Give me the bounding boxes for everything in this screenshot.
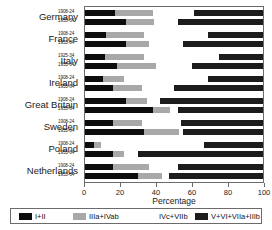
- bar-segment: [142, 120, 181, 126]
- bar-row: [85, 32, 263, 38]
- bar-group: [85, 29, 263, 51]
- bar-segment: [142, 85, 174, 91]
- bar-row: [85, 85, 263, 91]
- bar-segment: [85, 173, 138, 179]
- bar-segment: [153, 10, 194, 16]
- cohort-label: 1908-24: [58, 97, 84, 103]
- legend-label: I+II: [35, 212, 46, 221]
- bar-segment: [85, 54, 105, 60]
- bar-segment: [208, 76, 263, 82]
- x-axis: 020406080100: [84, 182, 264, 188]
- bar-segment: [126, 98, 147, 104]
- bar-row: [85, 164, 263, 170]
- bar-segment: [194, 10, 263, 16]
- bar-row: [85, 151, 263, 157]
- bar-segment: [149, 41, 183, 47]
- x-axis-tick: [264, 183, 265, 187]
- bar-segment: [156, 63, 192, 69]
- bar-segment: [126, 19, 154, 25]
- bar-row: [85, 54, 263, 60]
- x-axis-tick: [228, 183, 229, 187]
- bar-segment: [174, 85, 263, 91]
- bar-row: [85, 173, 263, 179]
- cohort-label: 1908-24: [58, 9, 84, 15]
- bar-segment: [115, 10, 152, 16]
- cohort-label: 1955-64: [58, 150, 84, 156]
- bar-segment: [94, 142, 101, 148]
- bar-segment: [192, 63, 263, 69]
- cohort-label: 1955-64: [58, 62, 84, 68]
- legend-swatch: [73, 213, 86, 220]
- cohort-label: 1955-64: [58, 128, 84, 134]
- bar-row: [85, 63, 263, 69]
- cohort-label: 1908-24: [58, 141, 84, 147]
- bar-segment: [85, 41, 126, 47]
- bar-segment: [126, 41, 149, 47]
- bar-row: [85, 142, 263, 148]
- bar-segment: [219, 54, 264, 60]
- bar-segment: [85, 164, 113, 170]
- chart-legend: I+IIIIIa+IVabIVc+VIIbV+VI+VIIa+IIIb: [10, 208, 262, 224]
- cohort-label-group: 1908-241955-64: [58, 28, 84, 50]
- bar-segment: [153, 107, 171, 113]
- bar-segment: [124, 76, 208, 82]
- bar-segment: [85, 129, 144, 135]
- bar-segment: [178, 19, 263, 25]
- bar-segment: [154, 19, 177, 25]
- x-axis-tick: [156, 183, 157, 187]
- bar-segment: [117, 63, 156, 69]
- bar-segment: [85, 98, 126, 104]
- bar-group: [85, 95, 263, 117]
- bar-segment: [85, 120, 113, 126]
- cohort-label: 1925-34: [58, 53, 84, 59]
- bar-segment: [162, 173, 169, 179]
- bar-segment: [183, 129, 263, 135]
- bar-segment: [85, 85, 113, 91]
- bar-row: [85, 120, 263, 126]
- bar-row: [85, 107, 263, 113]
- cohort-label: 1955-64: [58, 18, 84, 24]
- legend-item: V+VI+VIIa+IIIb: [195, 212, 260, 221]
- bar-segment: [147, 98, 159, 104]
- bar-segment: [101, 142, 204, 148]
- bar-segment: [113, 85, 141, 91]
- cohort-label-group: 1908-241955-64: [58, 160, 84, 182]
- bar-group: [85, 161, 263, 183]
- bar-segment: [181, 120, 263, 126]
- cohort-label: 1908-24: [58, 75, 84, 81]
- bar-segment: [85, 10, 115, 16]
- legend-swatch: [19, 213, 32, 220]
- bar-segment: [178, 164, 263, 170]
- bar-segment: [144, 54, 219, 60]
- bar-segment: [103, 76, 124, 82]
- bar-group: [85, 73, 263, 95]
- cohort-label-group: 1908-241955-64: [58, 138, 84, 160]
- cohort-label: 1955-64: [58, 84, 84, 90]
- bar-segment: [106, 32, 143, 38]
- legend-label: IIIa+IVab: [89, 212, 119, 221]
- bar-segment: [85, 32, 106, 38]
- bar-segment: [208, 32, 263, 38]
- bar-row: [85, 41, 263, 47]
- legend-swatch: [195, 213, 208, 220]
- legend-item: IIIa+IVab: [73, 212, 119, 221]
- bar-segment: [144, 129, 180, 135]
- bar-group: [85, 139, 263, 161]
- plot-area: [84, 6, 264, 182]
- cohort-label: 1955-64: [58, 172, 84, 178]
- bar-segment: [85, 76, 103, 82]
- stacked-bar-chart: GermanyFranceItalyIrelandGreat BritainSw…: [0, 0, 272, 230]
- cohort-labels: 1908-241955-641908-241955-641925-341955-…: [58, 6, 84, 182]
- cohort-label-group: 1925-341955-64: [58, 50, 84, 72]
- bar-group: [85, 51, 263, 73]
- cohort-label: 1955-64: [58, 106, 84, 112]
- legend-item: I+II: [19, 212, 46, 221]
- cohort-label-group: 1908-241955-64: [58, 94, 84, 116]
- x-axis-tick: [120, 183, 121, 187]
- cohort-label: 1955-64: [58, 40, 84, 46]
- bar-row: [85, 129, 263, 135]
- bar-segment: [204, 142, 263, 148]
- bar-segment: [113, 164, 149, 170]
- bar-group: [85, 117, 263, 139]
- bar-segment: [124, 151, 138, 157]
